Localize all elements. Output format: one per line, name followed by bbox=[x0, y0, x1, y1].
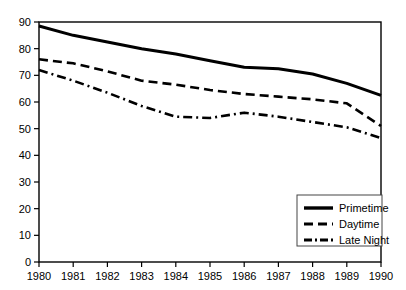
legend-label-primetime: Primetime bbox=[339, 202, 389, 214]
y-tick-label: 30 bbox=[19, 176, 31, 188]
legend-label-late-night: Late Night bbox=[339, 234, 389, 246]
y-tick-label: 60 bbox=[19, 96, 31, 108]
x-tick-label: 1981 bbox=[61, 270, 85, 282]
y-tick-label: 90 bbox=[19, 16, 31, 28]
x-tick-label: 1984 bbox=[164, 270, 188, 282]
y-tick-label: 80 bbox=[19, 43, 31, 55]
chart-canvas: 0102030405060708090 19801981198219831984… bbox=[0, 0, 406, 290]
y-tick-label: 50 bbox=[19, 123, 31, 135]
x-tick-label: 1988 bbox=[300, 270, 324, 282]
x-tick-label: 1990 bbox=[369, 270, 393, 282]
x-tick-label: 1989 bbox=[335, 270, 359, 282]
y-tick-label: 40 bbox=[19, 149, 31, 161]
x-tick-label: 1980 bbox=[27, 270, 51, 282]
y-tick-label: 10 bbox=[19, 229, 31, 241]
x-tick-label: 1987 bbox=[266, 270, 290, 282]
x-tick-label: 1985 bbox=[198, 270, 222, 282]
line-chart: 0102030405060708090 19801981198219831984… bbox=[0, 0, 406, 290]
x-tick-label: 1983 bbox=[129, 270, 153, 282]
x-tick-label: 1982 bbox=[95, 270, 119, 282]
x-tick-label: 1986 bbox=[232, 270, 256, 282]
legend-label-daytime: Daytime bbox=[339, 218, 379, 230]
y-tick-label: 70 bbox=[19, 69, 31, 81]
chart-legend: PrimetimeDaytimeLate Night bbox=[297, 195, 389, 246]
y-tick-label: 0 bbox=[25, 256, 31, 268]
y-tick-label: 20 bbox=[19, 203, 31, 215]
